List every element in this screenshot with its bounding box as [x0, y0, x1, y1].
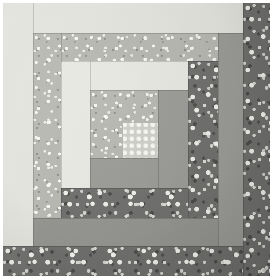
log-top-outer-cream	[33, 3, 243, 33]
log-right-inner-gray	[158, 90, 188, 188]
log-cabin-block	[3, 3, 270, 276]
log-right-edge-dark	[243, 3, 270, 276]
log-bottom-edge-dark	[3, 246, 243, 276]
log-left-inner-white	[61, 61, 90, 188]
log-bottom-mid-dark	[61, 188, 188, 218]
log-top-mid-lightprint	[61, 33, 218, 61]
log-bottom-inner-gray	[90, 158, 158, 188]
log-top-inner-white	[90, 61, 188, 90]
log-bottom-outer-gray	[33, 218, 218, 246]
log-right-outer-gray	[218, 33, 243, 246]
center-dot-patch	[123, 123, 158, 158]
log-right-mid-dark	[188, 61, 218, 218]
log-left-mid-lightprint	[33, 33, 61, 218]
quilt-block-photo	[0, 0, 273, 279]
log-left-outer-cream	[3, 3, 33, 246]
